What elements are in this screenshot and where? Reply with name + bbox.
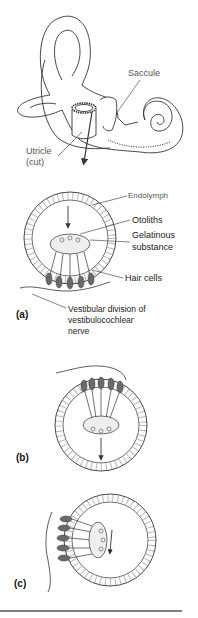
utricle-cut-label: (cut)	[26, 157, 44, 167]
saccule-label: Saccule	[128, 68, 160, 78]
panel-a-tag: (a)	[16, 309, 28, 320]
hair-cells-label: Hair cells	[125, 273, 163, 283]
panel-b-tag: (b)	[16, 452, 29, 463]
utricle-label: Utricle	[26, 146, 52, 156]
vestibular-diagram: Saccule Utricle (cut)	[0, 0, 198, 618]
gelatinous-label: Gelatinous	[132, 230, 176, 240]
inner-ear-labyrinth	[18, 16, 183, 153]
substance-label: substance	[132, 242, 173, 252]
panel-c-tag: (c)	[14, 578, 26, 589]
otoliths-label: Otoliths	[132, 215, 163, 225]
panel-a-macula-upright	[20, 192, 116, 291]
panel-c-macula-tilted	[46, 494, 156, 592]
nerve-label-line1: Vestibular division of	[68, 304, 146, 314]
panel-b-macula-inverted	[55, 366, 147, 471]
nerve-label-line2: vestibulocochlear	[68, 315, 134, 325]
nerve-label-line3: nerve	[68, 326, 90, 336]
endolymph-label: Endolymph	[128, 191, 168, 200]
